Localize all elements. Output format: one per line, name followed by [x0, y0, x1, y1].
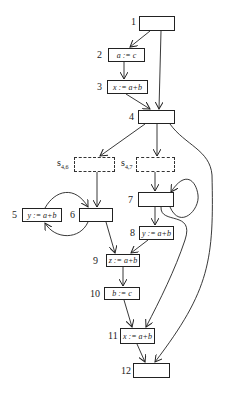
- node-7-label: 7: [128, 195, 133, 205]
- node-9-label: 9: [93, 256, 98, 266]
- edge-7-7: [170, 179, 198, 217]
- node-5: y := a+b: [22, 208, 62, 222]
- node-s46-label: s4,6: [57, 158, 68, 172]
- node-2: a := c: [108, 48, 145, 62]
- edge-11-12: [137, 344, 145, 362]
- node-4: [138, 110, 175, 124]
- node-10: b := c: [104, 287, 140, 300]
- node-9: z := a+b: [106, 254, 140, 267]
- node-3-label: 3: [97, 82, 102, 92]
- node-12: [133, 363, 170, 378]
- flow-graph: 1 2 a := c 3 x := a+b 4 s4,6 s4,7 5 y :=…: [0, 0, 228, 396]
- edge-6-5: [45, 222, 88, 236]
- edge-6-9: [106, 222, 115, 253]
- edge-5-6: [45, 192, 88, 208]
- node-11: x := a+b: [120, 328, 155, 344]
- node-7: [138, 192, 174, 207]
- edge-1-2: [130, 31, 150, 47]
- node-5-label: 5: [12, 210, 17, 220]
- node-3: x := a+b: [107, 80, 148, 94]
- node-11-label: 11: [108, 331, 118, 341]
- node-s47: [136, 157, 175, 172]
- node-10-label: 10: [90, 289, 100, 299]
- edge-8-9: [131, 240, 148, 253]
- node-1-label: 1: [131, 17, 136, 27]
- edge-4-s46: [100, 124, 145, 156]
- node-s46: [74, 157, 115, 172]
- node-4-label: 4: [129, 112, 134, 122]
- node-1: [139, 16, 175, 31]
- edge-7-11: [146, 207, 187, 327]
- node-8-label: 8: [130, 228, 135, 238]
- node-8: y := a+b: [139, 226, 174, 240]
- edge-10-11: [124, 300, 132, 327]
- node-12-label: 12: [121, 366, 131, 376]
- node-6-label: 6: [70, 210, 75, 220]
- node-s47-label: s4,7: [121, 158, 132, 172]
- edge-1-4: [159, 31, 161, 109]
- node-2-label: 2: [97, 50, 102, 60]
- node-6: [79, 208, 113, 222]
- edge-3-4: [126, 94, 150, 109]
